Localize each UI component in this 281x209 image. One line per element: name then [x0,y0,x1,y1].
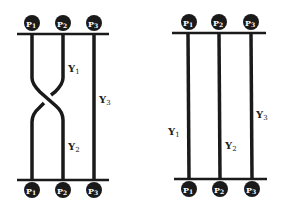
label-y2: Y2 [67,141,80,154]
label-y3: Y3 [255,109,268,122]
bottom-points: P1 P2 P3 [181,181,260,197]
bottom-points: P1 P2 P3 [24,182,102,198]
label-y3: Y3 [98,94,111,107]
braid-diagram-canvas: Y1 Y2 Y3 P1 P2 P3 P1 P2 P3 Y1 Y2 Y3 [0,0,281,209]
top-points: P1 P2 P3 [181,14,259,30]
label-y2: Y2 [224,140,237,153]
right-diagram: Y1 Y2 Y3 P1 P2 P3 P1 P2 P3 [167,14,268,197]
strand-y1 [32,34,63,180]
top-points: P1 P2 P3 [24,15,102,31]
label-y1: Y1 [67,63,80,76]
label-y1: Y1 [167,126,180,139]
strand-y2-lower [32,103,44,180]
left-diagram: Y1 Y2 Y3 P1 P2 P3 P1 P2 P3 [17,15,111,198]
strand-y3 [251,33,252,179]
strand-y1 [188,33,189,179]
strand-y2-upper [51,34,63,95]
strand-y2 [219,33,220,179]
